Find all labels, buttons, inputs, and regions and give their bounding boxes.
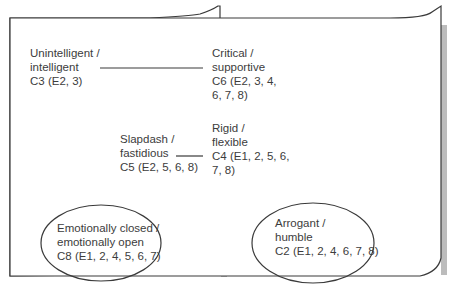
node-c5-line-1: Slapdash / [120, 132, 198, 146]
node-c4-line-3: C4 (E1, 2, 5, 6, [212, 149, 289, 163]
node-c8: Emotionally closed / emotionally open C8… [57, 221, 161, 263]
node-c2-line-2: humble [275, 230, 379, 244]
node-c8-line-3: C8 (E1, 2, 4, 5, 6, 7) [57, 249, 161, 263]
node-c4: Rigid / flexible C4 (E1, 2, 5, 6, 7, 8) [212, 121, 289, 177]
node-c3-line-2: intelligent [30, 60, 100, 74]
node-c5-line-3: C5 (E2, 5, 6, 8) [120, 160, 198, 174]
node-c6: Critical / supportive C6 (E2, 3, 4, 6, 7… [212, 46, 277, 102]
node-c6-line-3: C6 (E2, 3, 4, [212, 74, 277, 88]
node-c4-line-2: flexible [212, 135, 289, 149]
node-c5: Slapdash / fastidious C5 (E2, 5, 6, 8) [120, 132, 198, 174]
node-c4-line-1: Rigid / [212, 121, 289, 135]
page-shadow [441, 25, 447, 275]
node-c3: Unintelligent / intelligent C3 (E2, 3) [30, 46, 100, 88]
node-c2-line-3: C2 (E1, 2, 4, 6, 7, 8) [275, 244, 379, 258]
node-c6-line-4: 6, 7, 8) [212, 88, 277, 102]
node-c8-line-2: emotionally open [57, 235, 161, 249]
node-c6-line-2: supportive [212, 60, 277, 74]
node-c6-line-1: Critical / [212, 46, 277, 60]
node-c5-line-2: fastidious [120, 146, 198, 160]
node-c2-line-1: Arrogant / [275, 216, 379, 230]
node-c8-line-1: Emotionally closed / [57, 221, 161, 235]
node-c3-line-3: C3 (E2, 3) [30, 74, 100, 88]
node-c4-line-4: 7, 8) [212, 163, 289, 177]
node-c3-line-1: Unintelligent / [30, 46, 100, 60]
node-c2: Arrogant / humble C2 (E1, 2, 4, 6, 7, 8) [275, 216, 379, 258]
